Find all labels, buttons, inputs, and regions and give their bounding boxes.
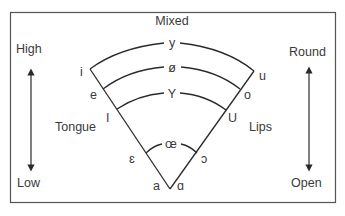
symbol-u: u xyxy=(259,69,266,83)
label-mixed: Mixed xyxy=(155,14,188,28)
label-high: High xyxy=(16,42,42,56)
symbol-script-a: ɑ xyxy=(177,179,184,193)
arc-level-3-left xyxy=(117,93,164,109)
symbol-open-e: ɛ xyxy=(129,152,135,166)
label-round: Round xyxy=(289,45,326,59)
label-open: Open xyxy=(291,176,322,190)
arc-level-2-right xyxy=(181,67,240,89)
symbol-i: i xyxy=(80,65,83,79)
symbol-o: o xyxy=(244,88,251,102)
symbol-small-cap-y: Y xyxy=(168,87,177,101)
symbol-e: e xyxy=(90,88,97,102)
symbol-open-o: ɔ xyxy=(201,152,207,166)
fan-right-edge xyxy=(170,71,254,189)
arc-level-2-left xyxy=(103,67,164,89)
symbol-a: a xyxy=(153,179,160,193)
label-tongue: Tongue xyxy=(55,120,96,134)
arc-level-1-right xyxy=(180,43,254,71)
vowel-diagram: Mixed High Low Tongue Round Open Lips y … xyxy=(0,0,345,216)
symbol-small-cap-i: I xyxy=(106,111,109,125)
symbol-y: y xyxy=(169,36,176,50)
label-lips: Lips xyxy=(249,120,272,134)
fan-left-edge xyxy=(90,69,170,189)
arc-level-1-left xyxy=(90,43,164,69)
symbol-small-cap-u: U xyxy=(228,111,237,125)
arc-level-4-right xyxy=(181,144,197,153)
symbol-o-slash: ø xyxy=(168,61,176,75)
arc-level-3-right xyxy=(180,93,226,110)
arc-level-4-left xyxy=(146,144,162,153)
symbol-oe: œ xyxy=(165,137,177,151)
label-low: Low xyxy=(17,176,41,190)
